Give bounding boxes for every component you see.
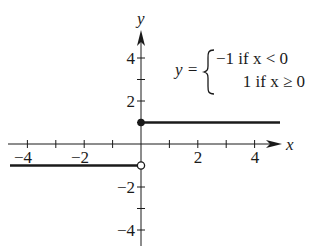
x-axis: x −4 −2 2 4 [8,135,294,167]
equation-case-1: −1 if x < 0 [216,49,288,68]
closed-endpoint-icon [137,119,145,127]
piecewise-function-plot: x −4 −2 2 4 y 4 [0,0,312,246]
curly-brace-icon [204,50,214,94]
y-tick-label: −2 [117,178,135,197]
y-tick-label: 2 [127,92,136,111]
equation-lhs: y = [173,60,198,79]
series-positive-branch [137,119,280,127]
x-tick-label: −4 [14,148,33,167]
x-tick-label: −2 [71,148,89,167]
y-axis-label: y [135,9,145,28]
equation-case-2: 1 if x ≥ 0 [243,72,305,91]
open-endpoint-icon [137,162,144,169]
x-tick-label: 2 [194,148,203,167]
equation-annotation: y = −1 if x < 0 1 if x ≥ 0 [173,49,305,94]
y-tick-label: −4 [117,221,136,240]
y-tick-label: 4 [127,49,136,68]
x-tick-label: 4 [251,148,260,167]
x-axis-label: x [285,135,294,154]
y-axis: y 4 2 −2 −4 [117,9,145,246]
